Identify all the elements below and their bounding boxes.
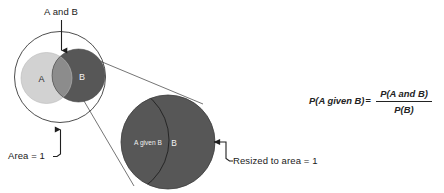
formula-left-side: P(A given B) <box>309 95 364 106</box>
magnified-set-b-label: B <box>171 138 177 148</box>
a-given-b-label: A given B <box>134 139 162 147</box>
set-a-label: A <box>38 74 44 84</box>
formula-denominator: P(B) <box>394 104 413 115</box>
intersection-callout-label: A and B <box>44 6 78 17</box>
set-b-label: B <box>79 72 85 82</box>
area-callout-label: Area = 1 <box>8 150 45 161</box>
conditional-probability-diagram: A B A and B Area = 1 A given B B Resized… <box>0 0 444 193</box>
formula-numerator: P(A and B) <box>380 88 428 99</box>
resize-callout-label: Resized to area = 1 <box>233 155 318 166</box>
formula-equals: = <box>365 95 371 106</box>
